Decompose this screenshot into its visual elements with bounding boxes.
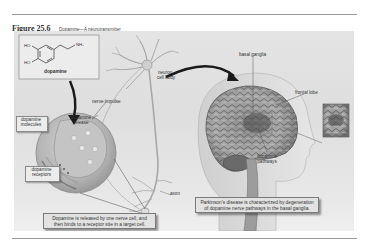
top-rule <box>12 14 357 15</box>
dopamine-release-label-2: release <box>64 120 98 125</box>
amine-label: NH₂ <box>76 42 84 47</box>
illustration-panel: HO HO NH₂ dopamine nerve impulse neuron … <box>14 31 354 231</box>
dopamine-pathways-label-2: pathways <box>250 159 284 164</box>
cell-body-label: cell body <box>157 75 175 80</box>
parkinsons-caption: Parkinson’s disease is characterized by … <box>195 197 319 213</box>
neuron-illustration <box>98 35 179 212</box>
dopamine-molecule-label: dopamine <box>44 69 67 74</box>
frontal-lobe-label: frontal lobe <box>295 90 318 95</box>
figure-caption: Figure 25.6 Dopamine—A neurotransmitter <box>12 17 121 27</box>
parkinsons-caption-line-2: of dopamine nerve pathways in the basal … <box>199 206 315 212</box>
hydroxyl-top-label: HO <box>24 43 30 48</box>
bottom-rule <box>12 238 357 239</box>
synapse-caption: Dopamine is released by one nerve cell, … <box>43 213 156 229</box>
dopamine-receptors-label-2: receptors <box>25 172 58 177</box>
basal-ganglia-label: basal ganglia <box>239 52 266 57</box>
dopamine-molecules-label-2: molecules <box>16 122 46 127</box>
hydroxyl-bottom-label: HO <box>24 60 30 65</box>
synapse-caption-line-2: then binds to a receptor site in a targe… <box>47 222 152 228</box>
axon-label: axon <box>170 191 180 196</box>
nerve-impulse-label: nerve impulse <box>92 99 121 104</box>
